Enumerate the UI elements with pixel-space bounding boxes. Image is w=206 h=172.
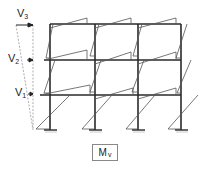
- load-label-v1: V1: [15, 86, 26, 99]
- load-label-v3: V3: [17, 7, 28, 20]
- moment-label-sub: v: [108, 151, 112, 158]
- frame: [40, 24, 181, 130]
- load-profile: [16, 25, 33, 130]
- moment-label: M: [99, 147, 107, 158]
- load-label-v2: V2: [8, 52, 19, 65]
- moment-diagram: [36, 18, 198, 129]
- moment-label-box: Mv: [92, 144, 118, 161]
